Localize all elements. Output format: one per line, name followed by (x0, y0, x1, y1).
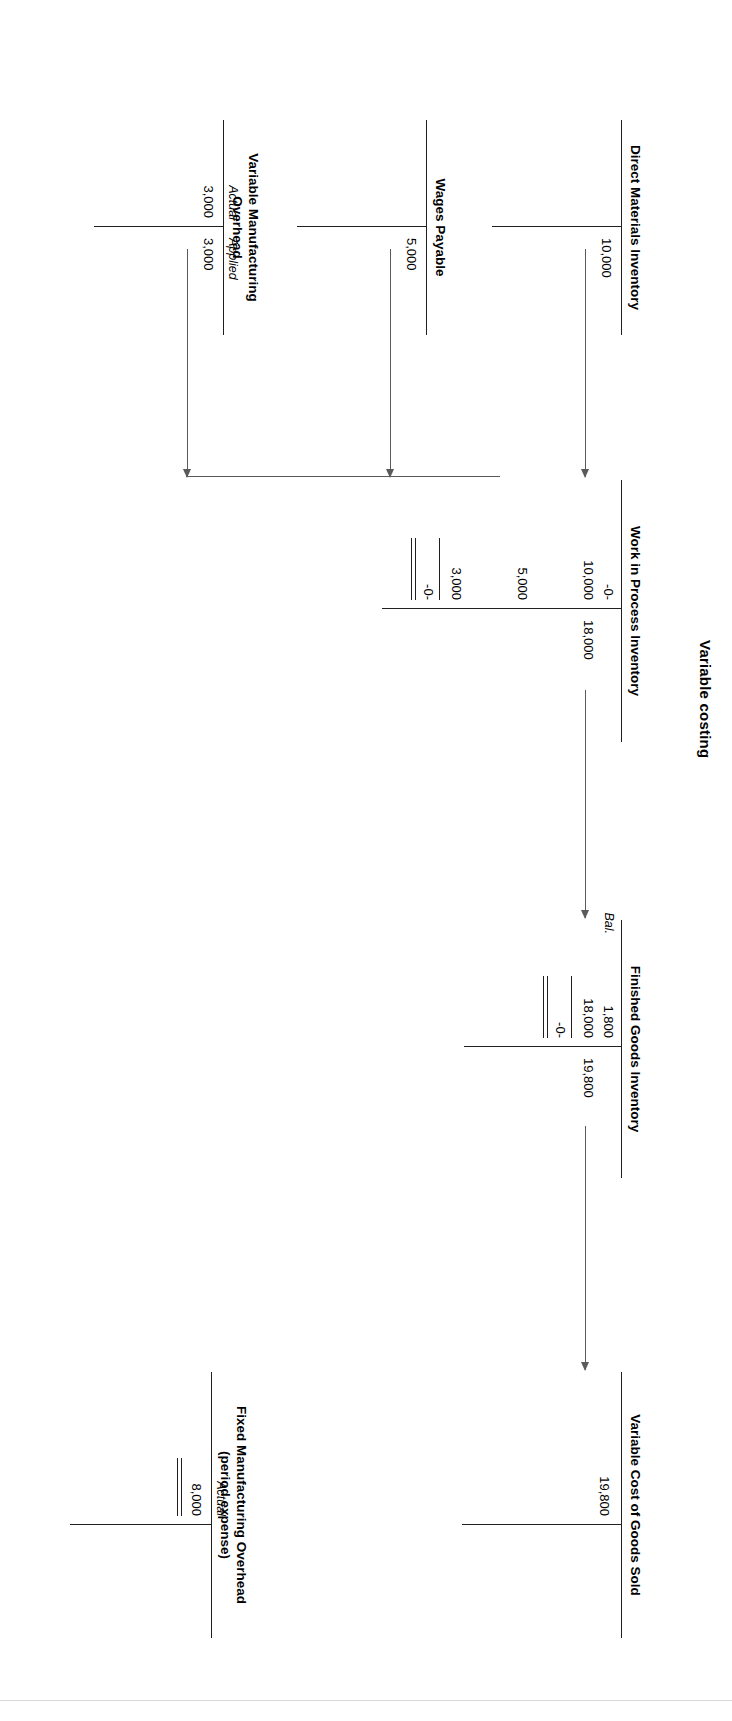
account-title-line1: Fixed Manufacturing Overhead (234, 1406, 249, 1604)
wip-balance-double-rule (411, 538, 416, 600)
fmoh-debit-label: Actual (212, 1372, 228, 1516)
t-account-top-rule (621, 480, 622, 742)
arrow-wip-to-finished-goods (585, 690, 586, 918)
account-title-line1: Variable Manufacturing (246, 153, 261, 302)
fg-debit-transferred-in: 18,000 (580, 920, 596, 1038)
wip-debit-labor: 5,000 (514, 480, 530, 600)
t-account-stem (94, 226, 224, 227)
vmoh-credit-amount: 3,000 (200, 238, 216, 330)
account-work-in-process-inventory: Work in Process Inventory -0- 10,000 5,0… (382, 480, 622, 742)
t-account-stem (70, 1524, 212, 1525)
wip-debit-overhead: 3,000 (448, 480, 464, 600)
variable-costing-t-account-diagram: Variable costing Direct Materials Invent… (0, 0, 732, 1721)
t-account-stem (297, 226, 427, 227)
wip-beginning-balance: -0- (600, 480, 616, 600)
account-title-wages-payable: Wages Payable (432, 179, 448, 277)
fg-balance-double-rule (543, 976, 548, 1038)
t-account-top-rule (621, 120, 622, 335)
dm-credit-amount: 10,000 (598, 238, 614, 330)
figure-title: Variable costing (697, 640, 714, 758)
account-title-variable-cost-of-goods-sold: Variable Cost of Goods Sold (627, 1414, 643, 1596)
wages-credit-amount: 5,000 (403, 238, 419, 330)
wip-debit-materials: 10,000 (580, 480, 596, 600)
account-variable-manufacturing-overhead: Variable Manufacturing Overhead Actual 3… (94, 120, 224, 335)
wip-credit-transferred: 18,000 (580, 620, 596, 740)
account-title-direct-materials-inventory: Direct Materials Inventory (627, 145, 643, 310)
account-title-finished-goods-inventory: Finished Goods Inventory (627, 966, 643, 1133)
vcogs-debit-amount: 19,800 (596, 1372, 612, 1516)
t-account-top-rule (621, 920, 622, 1178)
arrow-variable-overhead-to-wip (187, 249, 188, 477)
fmoh-debit-amount: 8,000 (188, 1372, 204, 1516)
account-direct-materials-inventory: Direct Materials Inventory 10,000 (492, 120, 622, 335)
arrow-overhead-riser (186, 476, 434, 477)
account-title-work-in-process-inventory: Work in Process Inventory (627, 526, 643, 696)
fg-balance-rule (571, 976, 572, 1038)
vmoh-debit-amount: 3,000 (200, 120, 216, 218)
arrow-direct-materials-to-wip (585, 249, 586, 477)
t-account-stem (462, 1524, 622, 1525)
vmoh-credit-label: Applied (224, 238, 240, 338)
fg-ending-balance: -0- (552, 920, 568, 1038)
t-account-stem (492, 226, 622, 227)
t-account-stem (464, 1046, 622, 1047)
arrow-finished-goods-to-cogs (585, 1126, 586, 1370)
page-edge-rule (0, 1700, 732, 1701)
account-finished-goods-inventory: Finished Goods Inventory Bal. 1,800 18,0… (464, 920, 622, 1178)
account-fixed-manufacturing-overhead: Fixed Manufacturing Overhead (period exp… (70, 1372, 212, 1638)
wip-balance-rule (439, 538, 440, 600)
rotated-page-wrapper: Variable costing Direct Materials Invent… (0, 0, 732, 1721)
account-wages-payable: Wages Payable 5,000 (297, 120, 427, 335)
wip-ending-balance: -0- (420, 480, 436, 600)
t-account-stem (382, 608, 622, 609)
fmoh-double-rule (177, 1458, 182, 1516)
fg-beginning-balance: 1,800 (600, 920, 616, 1038)
arrow-wages-to-wip (390, 249, 391, 477)
account-variable-cost-of-goods-sold: Variable Cost of Goods Sold 19,800 (462, 1372, 622, 1638)
t-account-top-rule (426, 120, 427, 335)
fg-credit-cogs: 19,800 (580, 1058, 596, 1176)
vmoh-debit-label: Actual (224, 120, 240, 220)
t-account-top-rule (621, 1372, 622, 1638)
